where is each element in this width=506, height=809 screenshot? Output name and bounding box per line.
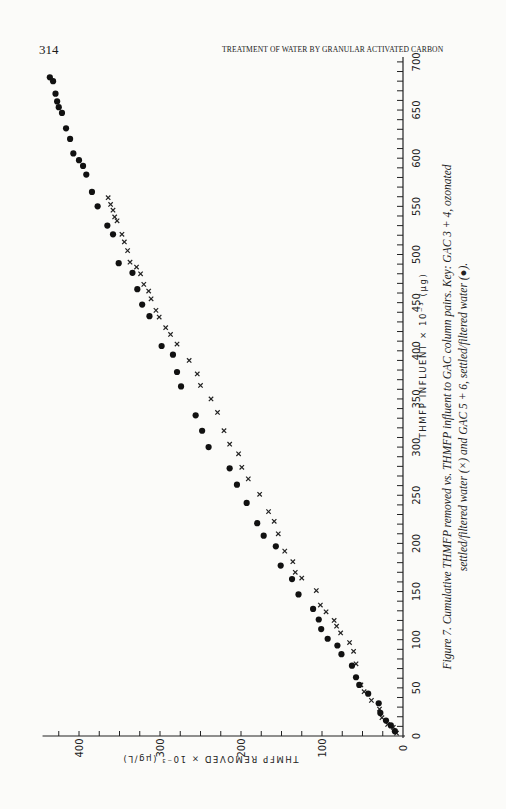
series-gac-3-4 [106, 195, 399, 735]
data-point-dot [392, 728, 398, 734]
y-tick-label: 400 [74, 738, 85, 757]
data-point-dot [199, 428, 205, 434]
data-point-cross [154, 308, 158, 312]
data-point-dot [295, 591, 301, 597]
data-point-dot [76, 157, 82, 163]
y-axis-title: THMFP REMOVED × 10⁻³ (µg/L) [122, 754, 300, 764]
data-point-dot [377, 710, 383, 716]
data-point-cross [222, 429, 226, 433]
axes: 0501001502002503003504004505005506006507… [43, 52, 422, 757]
data-point-cross [195, 372, 199, 376]
x-axis-title: THMFP INFLUENT × 10⁻³ (µg) [418, 273, 428, 440]
series-gac-5-6 [47, 74, 398, 734]
data-point-cross [334, 624, 338, 628]
data-point-cross [163, 325, 167, 329]
data-point-dot [193, 412, 199, 418]
data-point-cross [215, 410, 219, 414]
x-tick-label: 550 [411, 197, 422, 216]
data-point-dot [356, 682, 362, 688]
data-point-cross [209, 397, 213, 401]
data-point-cross [246, 477, 250, 481]
data-point-dot [70, 150, 76, 156]
data-point-cross [300, 576, 304, 580]
data-point-dot [59, 110, 65, 116]
data-point-cross [347, 640, 351, 644]
data-point-dot [170, 352, 176, 358]
data-point-dot [234, 482, 240, 488]
data-point-dot [146, 313, 152, 319]
data-point-dot [254, 520, 260, 526]
data-point-dot [67, 136, 73, 142]
data-point-dot [325, 636, 331, 642]
data-point-cross [168, 332, 172, 336]
data-point-dot [278, 562, 284, 568]
data-point-cross [293, 570, 297, 574]
data-point-dot [134, 286, 140, 292]
y-tick-label: 0 [398, 745, 409, 751]
data-point-cross [324, 610, 328, 614]
data-point-dot [139, 301, 145, 307]
x-tick-label: 100 [411, 630, 422, 649]
data-point-dot [174, 369, 180, 375]
x-tick-label: 300 [411, 438, 422, 457]
data-point-dot [54, 98, 60, 104]
x-tick-label: 150 [411, 582, 422, 601]
x-tick-label: 700 [411, 52, 422, 71]
data-point-dot [63, 125, 69, 131]
data-point-dot [116, 260, 122, 266]
data-point-dot [104, 223, 110, 229]
data-point-cross [272, 519, 276, 523]
data-point-dot [338, 651, 344, 657]
data-point-dot [318, 626, 324, 632]
data-point-cross [122, 240, 126, 244]
data-point-dot [95, 203, 101, 209]
data-point-cross [240, 465, 244, 469]
y-axis-ticks: 0100200300400 [59, 731, 409, 758]
data-point-cross [291, 559, 295, 563]
data-point-cross [125, 248, 129, 252]
x-tick-label: 50 [411, 681, 422, 694]
figure-caption: Figure 7. Cumulative THMFP removed vs. T… [441, 164, 470, 670]
data-point-cross [111, 208, 115, 212]
data-point-dot [56, 104, 62, 110]
data-point-cross [257, 492, 261, 496]
data-point-cross [138, 272, 142, 276]
data-point-dot [227, 465, 233, 471]
data-point-cross [146, 289, 150, 293]
data-point-dot [383, 717, 389, 723]
data-point-dot [310, 606, 316, 612]
data-point-cross [106, 195, 110, 199]
data-point-cross [283, 549, 287, 553]
data-point-dot [353, 674, 359, 680]
x-tick-label: 500 [411, 245, 422, 264]
data-point-dot [376, 700, 382, 706]
data-point-dot [178, 383, 184, 389]
data-point-cross [227, 442, 231, 446]
data-point-cross [187, 358, 191, 362]
x-tick-label: 600 [411, 149, 422, 168]
data-point-dot [89, 189, 95, 195]
data-point-cross [120, 232, 124, 236]
data-point-cross [314, 588, 318, 592]
data-point-dot [349, 663, 355, 669]
data-point-cross [157, 315, 161, 319]
data-point-dot [110, 231, 116, 237]
data-point-cross [369, 698, 373, 702]
data-point-dot [129, 270, 135, 276]
data-point-cross [198, 383, 202, 387]
data-point-cross [134, 265, 138, 269]
data-point-cross [266, 509, 270, 513]
data-point-dot [334, 642, 340, 648]
caption-line-1: Figure 7. Cumulative THMFP removed vs. T… [441, 164, 454, 670]
data-point-dot [365, 691, 371, 697]
y-tick-label: 100 [317, 738, 328, 757]
figure-7-chart: 0501001502002503003504004505005506006507… [0, 0, 506, 809]
data-point-dot [159, 343, 165, 349]
data-point-cross [149, 297, 153, 301]
data-point-cross [142, 282, 146, 286]
data-point-dot [206, 444, 212, 450]
data-point-dot [244, 500, 250, 506]
data-point-cross [276, 532, 280, 536]
data-point-cross [112, 215, 116, 219]
data-point-cross [115, 219, 119, 223]
